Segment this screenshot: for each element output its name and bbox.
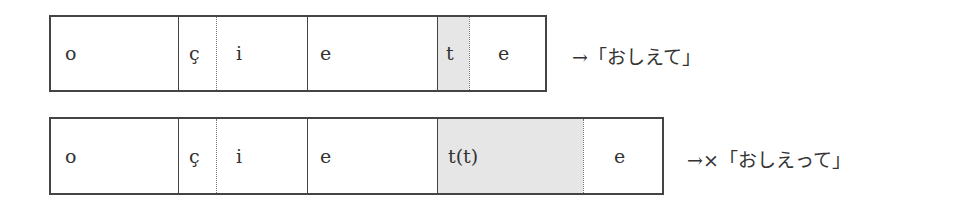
cell-e: e <box>307 17 437 90</box>
dotted-divider <box>469 17 470 90</box>
cell-ci: ç i <box>178 17 307 90</box>
segment-label: o <box>65 44 76 63</box>
segment-label: i <box>236 147 242 166</box>
segment-label: e <box>320 44 331 63</box>
segment-label: t <box>446 44 454 63</box>
cell-tt-shaded: t(t) <box>437 119 583 193</box>
cell-t-shaded: t <box>437 17 469 90</box>
dotted-divider <box>583 119 584 193</box>
segment-label: ç <box>189 147 200 166</box>
dotted-divider <box>216 119 217 193</box>
mora-row-2: o ç i e t(t) e <box>49 117 664 195</box>
segment-label: o <box>65 147 76 166</box>
result-text: →「おしえて」 <box>572 42 701 69</box>
segment-label: t(t) <box>448 147 478 166</box>
segment-label: e <box>320 147 331 166</box>
result-text: →×「おしえって」 <box>687 145 851 172</box>
cell-o: o <box>51 17 178 90</box>
cell-ci: ç i <box>178 119 307 193</box>
dotted-divider <box>216 17 217 90</box>
cell-e: e <box>307 119 437 193</box>
segment-label: e <box>498 44 509 63</box>
mora-row-1: o ç i e t e <box>49 15 547 92</box>
segment-label: i <box>236 44 242 63</box>
segment-label: e <box>614 147 625 166</box>
cell-o: o <box>51 119 178 193</box>
segment-label: ç <box>189 44 200 63</box>
